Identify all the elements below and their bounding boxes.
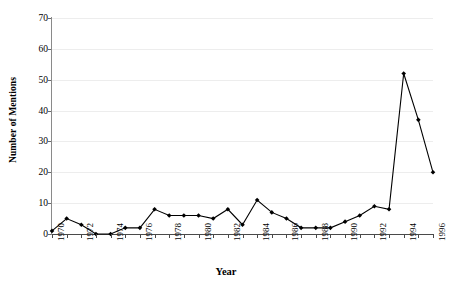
y-axis-tick-label: 10 <box>2 198 48 208</box>
x-axis-tick-label: 1974 <box>115 223 125 241</box>
x-axis-tick-mark <box>360 234 361 238</box>
x-axis-tick-mark <box>316 234 317 238</box>
x-axis-tick-mark <box>374 234 375 238</box>
gridline <box>52 80 433 81</box>
x-axis-tick-mark <box>213 234 214 238</box>
y-axis-tick-label: 60 <box>2 44 48 54</box>
y-axis-tick-label: 30 <box>2 136 48 146</box>
x-axis-tick-mark <box>418 234 419 238</box>
y-axis-tick-label: 20 <box>2 167 48 177</box>
x-axis-tick-label: 1982 <box>232 223 242 241</box>
x-axis-tick-mark <box>330 234 331 238</box>
gridline <box>52 141 433 142</box>
x-axis-tick-label: 1984 <box>261 223 271 241</box>
y-axis-tick-label: 50 <box>2 75 48 85</box>
chart-container: Number of Mentions 010203040506070 Year … <box>0 0 452 291</box>
x-axis-tick-label: 1972 <box>85 223 95 241</box>
x-axis-tick-mark <box>301 234 302 238</box>
gridline <box>52 111 433 112</box>
x-axis-tick-mark <box>257 234 258 238</box>
gridline <box>52 203 433 204</box>
x-axis-tick-mark <box>286 234 287 238</box>
gridline <box>52 172 433 173</box>
x-axis-tick-mark <box>125 234 126 238</box>
x-axis-tick-mark <box>81 234 82 238</box>
x-axis-tick-label: 1996 <box>437 223 447 241</box>
x-axis-tick-label: 1970 <box>56 223 66 241</box>
x-axis-tick-mark <box>199 234 200 238</box>
x-axis-tick-label: 1994 <box>408 223 418 241</box>
x-axis-tick-mark <box>155 234 156 238</box>
plot-area <box>52 18 433 234</box>
x-axis-title-text: Year <box>216 266 237 277</box>
x-axis-tick-label: 1978 <box>173 223 183 241</box>
y-axis-tick-group: 010203040506070 <box>0 0 48 291</box>
x-axis-tick-mark <box>404 234 405 238</box>
x-axis-tick-label: 1976 <box>144 223 154 241</box>
x-axis-tick-mark <box>345 234 346 238</box>
x-axis-title: Year <box>0 266 452 277</box>
y-axis-tick-label: 70 <box>2 13 48 23</box>
y-axis-tick-label: 40 <box>2 106 48 116</box>
y-axis-tick-label: 0 <box>2 229 48 239</box>
x-axis-tick-mark <box>169 234 170 238</box>
x-axis-tick-mark <box>272 234 273 238</box>
x-axis-tick-mark <box>184 234 185 238</box>
x-axis-tick-label: 1980 <box>203 223 213 241</box>
x-axis-tick-label: 1992 <box>378 223 388 241</box>
x-axis-tick-mark <box>52 234 53 238</box>
x-axis-tick-label: 1986 <box>290 223 300 241</box>
x-axis-tick-mark <box>389 234 390 238</box>
x-axis-tick-label: 1990 <box>349 223 359 241</box>
x-axis-tick-mark <box>111 234 112 238</box>
x-axis-tick-mark <box>140 234 141 238</box>
x-axis-tick-mark <box>228 234 229 238</box>
x-axis-tick-mark <box>96 234 97 238</box>
x-axis-tick-mark <box>243 234 244 238</box>
gridline <box>52 49 433 50</box>
x-axis-tick-label: 1988 <box>320 223 330 241</box>
gridline <box>52 18 433 19</box>
x-axis-tick-mark <box>433 234 434 238</box>
x-axis-tick-mark <box>67 234 68 238</box>
